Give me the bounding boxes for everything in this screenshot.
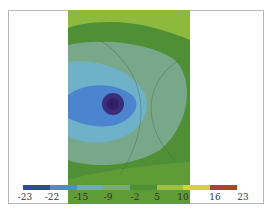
colorbar-tick: 23 — [237, 192, 248, 202]
colorbar-tick: -9 — [104, 192, 113, 202]
colorbar-tick: -15 — [74, 192, 89, 202]
colorbar-tick-labels: -23 -22 -15 -9 -2 5 10 16 23 — [0, 192, 273, 206]
colorbar-tick: 5 — [154, 192, 160, 202]
colorbar-tick: 16 — [209, 192, 220, 202]
colorbar — [23, 185, 237, 190]
colorbar-tick: -22 — [45, 192, 60, 202]
colorbar-tick: 10 — [177, 192, 188, 202]
colorbar-tick: -2 — [131, 192, 140, 202]
contour-plot — [0, 0, 273, 214]
contour-fill — [68, 10, 190, 204]
colorbar-tick: -23 — [18, 192, 33, 202]
